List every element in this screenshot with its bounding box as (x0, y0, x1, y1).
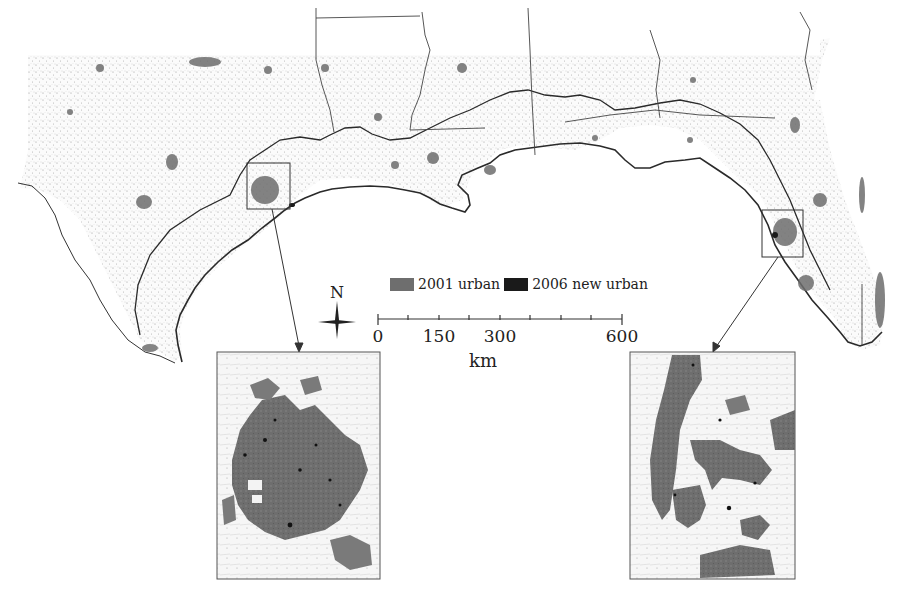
urban-areas-2006 (289, 203, 778, 238)
map-canvas (0, 0, 907, 600)
north-label: N (330, 283, 344, 302)
legend-item-2001-urban: 2001 urban (390, 276, 500, 292)
scale-tick-300: 300 (484, 326, 516, 346)
north-arrow-icon (318, 301, 356, 339)
scale-tick-600: 600 (606, 326, 638, 346)
tampa-inset (630, 352, 795, 579)
legend-swatch-2006-new-urban (504, 278, 528, 291)
scale-tick-150: 150 (423, 326, 455, 346)
houston-inset (217, 352, 380, 579)
legend-item-2006-new-urban: 2006 new urban (504, 276, 648, 292)
legend-label-2006-new-urban: 2006 new urban (532, 276, 648, 292)
legend-swatch-2001-urban (390, 278, 414, 291)
scale-unit-label: km (469, 350, 497, 371)
map-figure: N 2001 urban 2006 new urban 0 150 300 60… (0, 0, 907, 600)
scale-tick-0: 0 (373, 326, 384, 346)
legend-label-2001-urban: 2001 urban (418, 276, 500, 292)
scale-bar (378, 314, 622, 325)
legend: 2001 urban 2006 new urban (390, 276, 652, 292)
